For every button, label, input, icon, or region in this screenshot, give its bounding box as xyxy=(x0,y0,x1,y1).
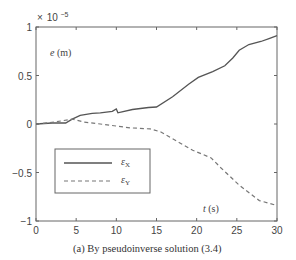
y-tick-label: −1 xyxy=(21,216,33,227)
y-exponent-label: × 10 −5 xyxy=(37,11,69,23)
x-tick-label: 15 xyxy=(151,225,163,236)
x-tick-label: 30 xyxy=(271,225,283,236)
x-tick-label: 5 xyxy=(73,225,79,236)
x-axis-label: t (s) xyxy=(203,203,219,215)
y-tick-label: 0.5 xyxy=(18,71,32,82)
y-tick-label: 1 xyxy=(26,22,32,33)
legend: εX εY xyxy=(55,149,150,193)
x-tick-label: 10 xyxy=(111,225,123,236)
x-tick-label: 20 xyxy=(191,225,203,236)
y-axis-label: e (m) xyxy=(50,47,71,59)
series-eps-x-line xyxy=(36,36,277,124)
y-tick-label: 0 xyxy=(26,119,32,130)
y-tick-label: −0.5 xyxy=(12,168,32,179)
x-tick-label: 0 xyxy=(33,225,39,236)
legend-box xyxy=(55,149,150,193)
figure-caption: (a) By pseudoinverse solution (3.4) xyxy=(73,243,222,255)
x-tick-label: 25 xyxy=(231,225,243,236)
chart: 051015202530−1−0.500.51 × 10 −5 e (m) t … xyxy=(0,0,296,260)
